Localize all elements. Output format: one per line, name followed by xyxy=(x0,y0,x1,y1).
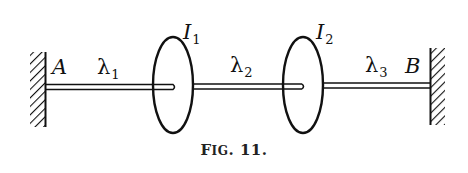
label-B: B xyxy=(405,56,420,77)
figure-caption: FIG. 11. xyxy=(0,141,468,159)
lambda1-subscript: 1 xyxy=(111,67,119,82)
lambda2-subscript: 2 xyxy=(244,65,252,80)
caption-number: . 11. xyxy=(228,141,267,159)
I2-symbol: I xyxy=(316,20,324,44)
right-wall-support xyxy=(431,48,446,125)
label-lambda2: λ2 xyxy=(230,55,253,79)
I2-subscript: 2 xyxy=(325,32,333,47)
caption-prefix-big: F xyxy=(200,141,211,159)
left-wall-support xyxy=(30,52,46,127)
caption-prefix-small: IG xyxy=(212,144,229,158)
lambda1-symbol: λ xyxy=(97,55,110,79)
shaft-segment-3 xyxy=(324,83,430,88)
I1-subscript: 1 xyxy=(192,32,200,47)
label-I1: I1 xyxy=(183,22,201,46)
label-I2: I2 xyxy=(316,22,334,46)
I1-symbol: I xyxy=(183,20,191,44)
shaft-segment-2 xyxy=(194,84,304,89)
lambda2-symbol: λ xyxy=(230,53,243,77)
lambda3-subscript: 3 xyxy=(379,65,387,80)
shaft-segment-1 xyxy=(46,85,175,90)
lambda3-symbol: λ xyxy=(365,53,378,77)
label-A: A xyxy=(52,57,67,78)
label-lambda1: λ1 xyxy=(97,57,120,81)
label-lambda3: λ3 xyxy=(365,55,388,79)
